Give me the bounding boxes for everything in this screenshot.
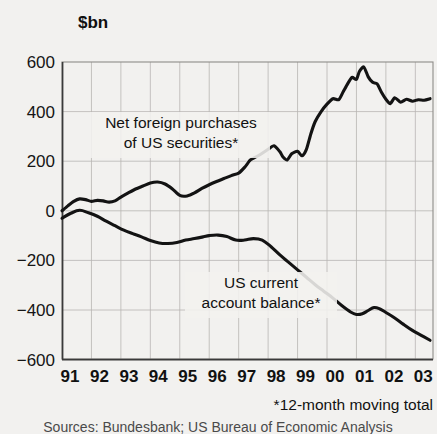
x-axis-tick-label: 94 [149,367,168,386]
x-axis-tick-label: 98 [267,367,286,386]
chart-source-note: Sources: Bundesbank; US Bureau of Econom… [43,419,392,434]
y-axis-tick-label: −400 [17,301,55,320]
x-axis-tick-label: 01 [355,367,374,386]
x-axis-tick-label: 00 [326,367,345,386]
series-label-line1: US current [224,274,299,291]
chart-footnote: *12-month moving total [274,396,433,413]
x-axis-tick-label: 91 [61,367,80,386]
y-axis-tick-label: 400 [27,103,55,122]
series-label-us-current-account: US current account balance* [185,272,337,318]
unit-label: $bn [78,13,108,32]
chart-canvas: $bn 6004002000−200−400−600 9192939495969… [0,0,437,434]
x-axis-tick-label: 99 [296,367,315,386]
series-label-line2: of US securities* [124,134,239,151]
y-axis-tick-label: −200 [17,251,55,270]
x-axis-tick-label: 03 [414,367,433,386]
x-axis-tick-label: 02 [384,367,403,386]
x-axis-tick-label: 96 [208,367,227,386]
y-axis-tick-label: −600 [17,351,55,370]
x-axis-tick-label: 92 [90,367,109,386]
y-axis-tick-label: 200 [27,152,55,171]
x-axis-tick-label: 95 [178,367,197,386]
y-axis-tick-label: 600 [27,53,55,72]
series-label-line2: account balance* [202,294,321,311]
x-axis-tick-label: 97 [237,367,256,386]
y-axis-tick-label: 0 [46,202,55,221]
series-label-line1: Net foreign purchases [105,114,257,131]
series-label-net-foreign-purchases: Net foreign purchases of US securities* [90,112,270,158]
x-axis-tick-label: 93 [119,367,138,386]
chart-figure: $bn 6004002000−200−400−600 9192939495969… [0,0,437,434]
